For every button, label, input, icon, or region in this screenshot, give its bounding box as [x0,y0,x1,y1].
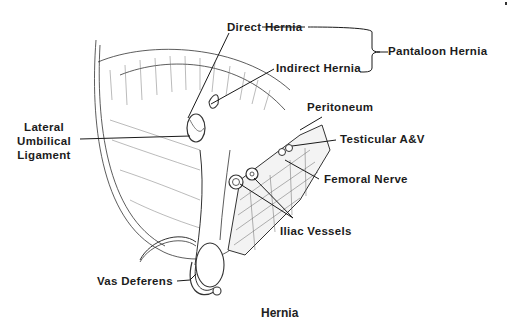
label-peritoneum: Peritoneum [307,101,373,114]
label-vas-deferens: Vas Deferens [97,275,173,288]
cord-stump [213,287,221,295]
iliac-vein [246,168,258,180]
label-lateral-umbilical-ligament: Lateral Umbilical Ligament [9,120,79,162]
label-line-ligament: Ligament [9,148,79,162]
label-line-umbilical: Umbilical [9,134,79,148]
leader-vas-deferens [177,274,196,281]
label-line-lateral: Lateral [9,120,79,134]
label-femoral-nerve: Femoral Nerve [324,173,408,186]
abdominal-wall-outline [94,40,160,250]
label-indirect-hernia: Indirect Hernia [276,62,361,75]
testicular-vein [286,145,293,152]
testicular-artery [279,149,286,156]
figure-caption: Hernia [261,306,298,320]
spermatic-cord [196,243,224,287]
indirect-hernia-sac [209,95,218,109]
label-direct-hernia: Direct Hernia [227,21,302,34]
leader-lateral-umbilical-ligament [80,136,190,139]
direct-hernia-sac [187,114,205,142]
iliac-artery [229,175,243,189]
label-testicular-av: Testicular A&V [340,133,425,146]
label-pantaloon-hernia: Pantaloon Hernia [388,45,487,58]
label-iliac-vessels: Iliac Vessels [280,225,352,238]
leader-indirect-hernia [211,69,274,104]
